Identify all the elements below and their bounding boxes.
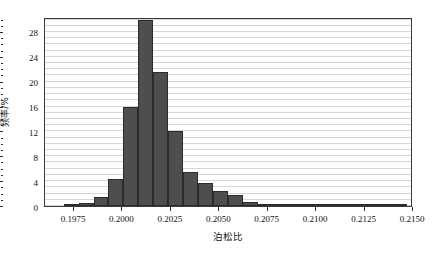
y-axis: 频率/% 0481216202428 (0, 18, 44, 207)
y-axis-minor-tick (1, 144, 4, 145)
histogram-bar (317, 204, 332, 206)
y-axis-minor-tick (1, 194, 4, 195)
y-axis-tick (0, 206, 3, 207)
x-axis-tick-label: 0.2125 (351, 214, 376, 224)
histogram-bar (377, 204, 392, 206)
y-axis-minor-tick (1, 125, 4, 126)
x-axis-tick-label: 0.2050 (206, 214, 231, 224)
histogram-bar (302, 204, 317, 206)
histogram-bar (183, 172, 198, 206)
histogram-bar (94, 197, 109, 206)
x-axis-tick-label: 0.2000 (109, 214, 134, 224)
x-axis-tick-label: 0.2150 (400, 214, 425, 224)
x-axis-tick (315, 207, 316, 211)
histogram-bar (392, 204, 407, 206)
y-axis-minor-tick (1, 38, 4, 39)
y-axis-minor-tick (1, 162, 4, 163)
y-axis-minor-tick (1, 75, 4, 76)
y-axis-minor-tick (1, 187, 4, 188)
y-axis-minor-tick (1, 150, 4, 151)
y-axis-minor-tick (1, 69, 4, 70)
y-axis-tick (0, 131, 3, 132)
y-axis-tick (0, 82, 3, 83)
x-axis-tick (218, 207, 219, 211)
y-axis-minor-tick (1, 169, 4, 170)
x-axis-tick-label: 0.2025 (158, 214, 183, 224)
y-axis-tick-label: 4 (34, 178, 39, 187)
x-axis: 泊松比 0.19750.20000.20250.20500.20750.2100… (44, 207, 412, 247)
histogram-bar (347, 204, 362, 206)
y-axis-minor-tick (1, 94, 4, 95)
y-axis-tick (0, 156, 3, 157)
y-axis-tick (0, 57, 3, 58)
x-axis-tick (121, 207, 122, 211)
y-axis-minor-tick (1, 119, 4, 120)
y-axis-minor-tick (1, 44, 4, 45)
y-axis-tick-label: 12 (29, 128, 38, 137)
histogram-bar (228, 195, 243, 206)
x-axis-tick-label: 0.2100 (303, 214, 328, 224)
y-axis-tick-label: 8 (34, 153, 39, 162)
x-axis-tick-label: 0.1975 (61, 214, 86, 224)
x-axis-tick (267, 207, 268, 211)
y-axis-minor-tick (1, 100, 4, 101)
y-axis-tick-label: 24 (29, 54, 38, 63)
y-axis-minor-tick (1, 138, 4, 139)
y-axis-tick-label: 28 (29, 29, 38, 38)
y-axis-tick (0, 32, 3, 33)
x-axis-tick (73, 207, 74, 211)
histogram-bar (332, 204, 347, 206)
y-axis-minor-tick (1, 200, 4, 201)
x-axis-tick (170, 207, 171, 211)
histogram-bar (198, 183, 213, 206)
y-axis-tick (0, 181, 3, 182)
x-axis-tick (364, 207, 365, 211)
histogram-bar (138, 20, 153, 207)
histogram-figure: 频率/% 0481216202428 泊松比 0.19750.20000.202… (0, 0, 439, 258)
histogram-bars (45, 19, 411, 206)
histogram-bar (362, 204, 377, 206)
y-axis-tick-label: 16 (29, 104, 38, 113)
histogram-bar (272, 204, 287, 206)
histogram-bar (64, 204, 79, 206)
plot-area (44, 18, 412, 207)
histogram-bar (213, 191, 228, 206)
y-axis-tick-label: 20 (29, 79, 38, 88)
x-axis-title: 泊松比 (213, 229, 243, 243)
histogram-bar (168, 131, 183, 206)
x-axis-tick-label: 0.2075 (254, 214, 279, 224)
histogram-bar (258, 204, 273, 206)
histogram-bar (243, 202, 258, 206)
y-axis-minor-tick (1, 113, 4, 114)
histogram-bar (123, 107, 138, 206)
y-axis-minor-tick (1, 26, 4, 27)
histogram-bar (287, 204, 302, 206)
x-axis-tick (412, 207, 413, 211)
y-axis-minor-tick (1, 63, 4, 64)
y-axis-minor-tick (1, 20, 4, 21)
histogram-bar (153, 72, 168, 206)
y-axis-minor-tick (1, 88, 4, 89)
y-axis-tick (0, 107, 3, 108)
y-axis-minor-tick (1, 51, 4, 52)
histogram-bar (108, 179, 123, 206)
histogram-bar (79, 203, 94, 206)
y-axis-minor-tick (1, 175, 4, 176)
y-axis-tick-label: 0 (34, 203, 39, 212)
